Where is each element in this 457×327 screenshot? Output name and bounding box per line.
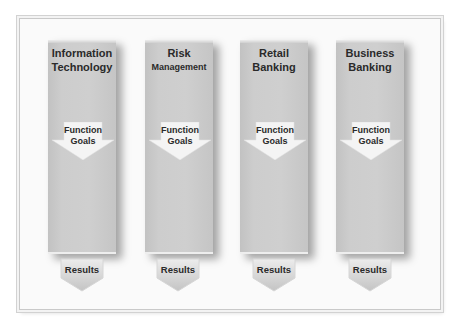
results-label: Results: [59, 264, 105, 275]
column-title-line2: Management: [145, 60, 213, 74]
column-business-banking: Business Banking Function Goals: [336, 40, 404, 254]
column-retail-banking: Retail Banking Function Goals: [240, 40, 308, 254]
goal-label-line2: Goals: [147, 136, 213, 147]
goal-label-line1: Function: [147, 125, 213, 136]
goal-label-line2: Goals: [50, 136, 116, 147]
function-goals-arrow: Function Goals: [338, 122, 404, 160]
column-title-line1: Risk: [145, 46, 213, 60]
results-label: Results: [251, 264, 297, 275]
column-title-line1: Information: [48, 46, 116, 60]
column-title-line1: Retail: [240, 46, 308, 60]
goal-label-line1: Function: [50, 125, 116, 136]
results-arrow: Results: [155, 258, 201, 292]
column-title-line2: Banking: [240, 60, 308, 74]
column-information-technology: Information Technology Function Goals: [48, 40, 116, 254]
column-risk-management: Risk Management Function Goals: [145, 40, 213, 254]
column-title-line1: Business: [336, 46, 404, 60]
results-label: Results: [155, 264, 201, 275]
goal-label-line1: Function: [242, 125, 308, 136]
column-title: Retail Banking: [240, 46, 308, 74]
results-arrow: Results: [347, 258, 393, 292]
column-title-line2: Banking: [336, 60, 404, 74]
function-goals-arrow: Function Goals: [147, 122, 213, 160]
function-goals-arrow: Function Goals: [242, 122, 308, 160]
goal-label-line2: Goals: [338, 136, 404, 147]
column-title-line2: Technology: [48, 60, 116, 74]
function-goals-arrow: Function Goals: [50, 122, 116, 160]
results-arrow: Results: [59, 258, 105, 292]
goal-label-line2: Goals: [242, 136, 308, 147]
column-title: Information Technology: [48, 46, 116, 74]
goal-label-line1: Function: [338, 125, 404, 136]
results-label: Results: [347, 264, 393, 275]
column-title: Risk Management: [145, 46, 213, 74]
results-arrow: Results: [251, 258, 297, 292]
column-title: Business Banking: [336, 46, 404, 74]
